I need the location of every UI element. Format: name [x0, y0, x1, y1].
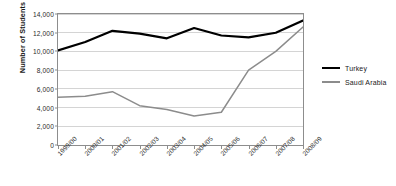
y-tick-mark: [55, 88, 58, 89]
y-tick-mark: [55, 107, 58, 108]
y-tick-label: 14,000: [33, 11, 54, 18]
legend-item[interactable]: Turkey: [322, 62, 396, 74]
y-tick-mark: [55, 51, 58, 52]
legend-line-swatch: [322, 67, 340, 69]
x-tick-label: 2008/09: [301, 135, 323, 157]
line-chart-figure: Number of Students 02,0004,0006,0008,000…: [0, 0, 396, 186]
y-tick-label: 0: [50, 142, 54, 149]
chart-legend: TurkeySaudi Arabia: [322, 62, 396, 90]
y-tick-label: 10,000: [33, 48, 54, 55]
plot-lines: [58, 14, 303, 145]
y-axis-title: Number of Students: [18, 0, 27, 108]
y-tick-mark: [55, 126, 58, 127]
plot-area: 02,0004,0006,0008,00010,00012,00014,0001…: [57, 13, 304, 146]
legend-line-swatch: [322, 81, 340, 83]
y-tick-label: 2,000: [37, 123, 54, 130]
y-tick-label: 6,000: [37, 85, 54, 92]
series-line-turkey: [58, 21, 303, 51]
y-tick-mark: [55, 70, 58, 71]
y-tick-label: 4,000: [37, 104, 54, 111]
y-tick-label: 8,000: [37, 67, 54, 74]
legend-label: Turkey: [345, 65, 367, 72]
y-tick-label: 12,000: [33, 29, 54, 36]
y-tick-mark: [55, 32, 58, 33]
legend-item[interactable]: Saudi Arabia: [322, 76, 396, 88]
legend-label: Saudi Arabia: [345, 79, 387, 86]
y-tick-mark: [55, 14, 58, 15]
series-line-saudi-arabia: [58, 27, 303, 116]
